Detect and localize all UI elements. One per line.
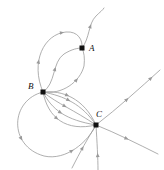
edge-C-outgoing-lower-right-ray — [96, 125, 158, 154]
arrowhead-B-to-A-inner-s-curve-0 — [53, 66, 58, 71]
arrowhead-C-outgoing-lower-right-ray-0 — [124, 136, 129, 141]
edge-A-outgoing-top-s-curve — [82, 8, 104, 48]
edge-C-incoming-lower-left-curve — [72, 125, 96, 168]
arrowhead-A-outgoing-top-s-curve-0 — [88, 24, 93, 29]
node-label-c: C — [96, 110, 102, 119]
node-label-a: A — [89, 44, 95, 53]
edge-B-to-C-arc-3 — [43, 92, 96, 125]
arrowhead-B-to-C-arc-3-0 — [62, 103, 68, 108]
arrowhead-B-to-C-arc-1-0 — [65, 93, 70, 98]
phase-portrait-figure: A B C — [0, 0, 164, 170]
node-marker-a — [80, 46, 85, 51]
node-marker-b — [41, 90, 46, 95]
arrowhead-layer — [19, 24, 154, 158]
arrowhead-B-to-C-big-outer-loop-0 — [19, 136, 24, 142]
edge-B-to-A-inner-s-curve — [43, 48, 82, 92]
phase-portrait-canvas — [0, 0, 164, 170]
edge-C-incoming-vertical-ray — [96, 125, 98, 170]
node-layer — [41, 46, 99, 128]
arrowhead-C-incoming-vertical-ray-0 — [96, 153, 100, 157]
node-marker-c — [94, 123, 99, 128]
arrowhead-B-to-C-big-outer-loop-1 — [69, 148, 75, 153]
arrowhead-B-to-C-arc-2-0 — [66, 97, 71, 102]
edge-B-to-A-upper-loop — [38, 32, 82, 92]
node-label-b: B — [28, 82, 34, 91]
arrowhead-C-incoming-lower-left-curve-0 — [80, 145, 85, 151]
edge-layer — [18, 8, 160, 170]
